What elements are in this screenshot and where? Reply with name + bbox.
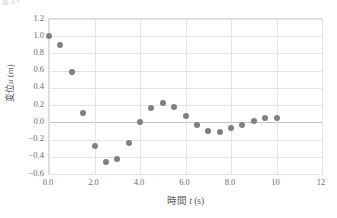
data-point — [46, 33, 52, 39]
data-point — [137, 119, 143, 125]
y-tick-label: 1.0 — [0, 31, 44, 40]
data-point — [126, 140, 132, 146]
plot-area — [48, 18, 323, 175]
data-point — [92, 143, 98, 149]
data-point — [69, 69, 75, 75]
x-tick-label: 6.0 — [168, 178, 202, 187]
gridline-vertical — [186, 19, 187, 174]
x-axis-title: 時間 t (s) — [48, 196, 323, 207]
y-tick-label: −0.6 — [0, 169, 44, 178]
y-axis-title-symbol: u — [5, 79, 15, 84]
x-axis-tick-labels: 0.02.04.06.08.01012 — [48, 178, 323, 190]
x-axis-title-symbol: t — [189, 196, 192, 206]
data-point — [171, 104, 177, 110]
gridline-vertical — [277, 19, 278, 174]
data-point — [205, 128, 211, 134]
figure-root: 図. 4.7 −0.6−0.4−0.20.00.20.40.60.81.01.2… — [0, 0, 337, 218]
data-point — [262, 115, 268, 121]
data-point — [183, 113, 189, 119]
gridline-vertical — [140, 19, 141, 174]
data-point — [103, 159, 109, 165]
y-axis-title-name: 変位 — [5, 84, 15, 102]
data-point — [114, 156, 120, 162]
figure-caption-fragment: 図. 4.7 — [2, 0, 20, 6]
gridline-horizontal — [49, 174, 322, 175]
gridline-vertical — [231, 19, 232, 174]
y-tick-label: −0.2 — [0, 134, 44, 143]
data-point — [80, 110, 86, 116]
data-point — [148, 105, 154, 111]
x-tick-label: 12 — [304, 178, 337, 187]
data-point — [228, 125, 234, 131]
gridline-vertical — [95, 19, 96, 174]
y-tick-label: −0.4 — [0, 151, 44, 160]
x-tick-label: 2.0 — [77, 178, 111, 187]
x-tick-label: 4.0 — [122, 178, 156, 187]
y-axis-title: 変位u (m) — [5, 53, 15, 113]
x-axis-title-unit: (s) — [194, 196, 204, 206]
y-tick-label: 1.2 — [0, 14, 44, 23]
gridline-vertical — [322, 19, 323, 174]
gridline-vertical — [49, 19, 50, 174]
y-tick-label: 0.0 — [0, 117, 44, 126]
x-tick-label: 0.0 — [31, 178, 65, 187]
data-point — [57, 42, 63, 48]
data-point — [274, 115, 280, 121]
data-point — [239, 122, 245, 128]
x-tick-label: 8.0 — [213, 178, 247, 187]
x-tick-label: 10 — [259, 178, 293, 187]
x-axis-title-name: 時間 — [167, 196, 187, 206]
y-axis-title-unit: (m) — [5, 64, 15, 77]
data-point — [217, 129, 223, 135]
data-point — [194, 122, 200, 128]
data-point — [251, 118, 257, 124]
